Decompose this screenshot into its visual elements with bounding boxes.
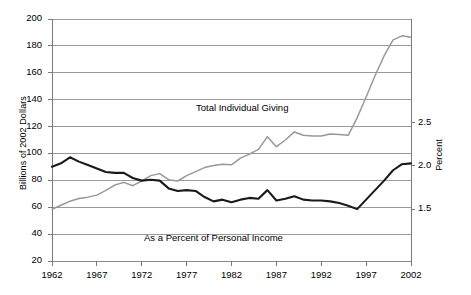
x-axis-tick-label: 1972 [122,269,162,280]
y-axis-tick-label: 180 [8,39,42,50]
plot-area [0,0,471,295]
y-axis-tick-label: 20 [8,254,42,265]
x-axis-tick-label: 1997 [346,269,386,280]
y-axis-tick-label: 120 [8,120,42,131]
x-axis-tick-label: 1977 [167,269,207,280]
x-axis-tick-label: 1982 [212,269,252,280]
x-axis-tick-label: 2002 [391,269,431,280]
annotation-total-individual-giving: Total Individual Giving [196,102,288,113]
y-axis-tick-label: 100 [8,146,42,157]
y-axis-tick-label: 140 [8,93,42,104]
y-axis-tick-label: 200 [8,12,42,23]
y2-axis-tick-label: 2.5 [418,116,448,127]
y-axis-tick-label: 40 [8,227,42,238]
y2-axis-tick-label: 1.5 [418,202,448,213]
x-axis-tick-label: 1987 [256,269,296,280]
chart-container: Billions of 2002 Dollars Percent 2040608… [0,0,471,295]
y-axis-tick-label: 160 [8,66,42,77]
y2-axis-tick-label: 2.0 [418,159,448,170]
x-axis-tick-label: 1962 [32,269,72,280]
annotation-percent-of-personal-income: As a Percent of Personal Income [144,232,283,243]
x-axis-tick-label: 1967 [77,269,117,280]
y-axis-tick-label: 80 [8,173,42,184]
y-axis-tick-label: 60 [8,200,42,211]
series-line-total-individual-giving [52,36,411,209]
x-axis-tick-label: 1992 [301,269,341,280]
